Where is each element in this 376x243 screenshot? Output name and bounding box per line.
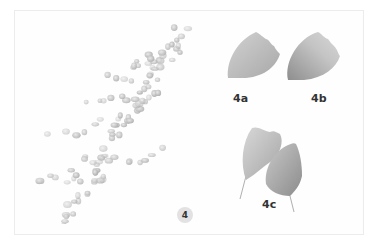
fern-frond-illustration [24,24,194,224]
panel-label-4c: 4c [262,198,276,211]
panel-label-4a: 4a [233,92,248,105]
figure-number-badge: 4 [177,207,193,223]
leaflet-4b-illustration [284,30,344,82]
leaflet-4a-illustration [226,30,284,80]
panel-label-4b: 4b [311,92,327,105]
